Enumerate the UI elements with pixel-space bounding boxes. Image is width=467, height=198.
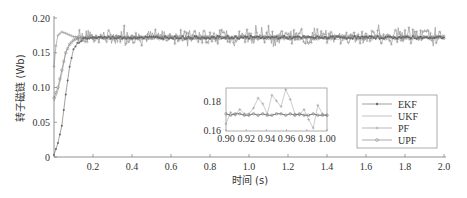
inset-x-tick-label: 0.96	[278, 133, 296, 144]
x-tick-label: 0.4	[126, 161, 139, 172]
y-tick-label: 0.20	[33, 13, 51, 24]
legend: EKFUKFPFUPF	[357, 95, 437, 148]
x-tick-label: 2.0	[438, 161, 451, 172]
x-tick-label: 0.8	[204, 161, 217, 172]
x-tick-label: 0.2	[87, 161, 100, 172]
inset-y-tick-label: 0.18	[204, 96, 222, 107]
inset-plot: 0.900.920.940.960.981.000.160.18	[204, 88, 336, 144]
y-tick-label: 0.05	[33, 117, 51, 128]
legend-item-ukf: UKF	[398, 111, 418, 122]
x-tick-label: 1.2	[282, 161, 295, 172]
inset-x-tick-label: 0.92	[237, 133, 255, 144]
inset-x-tick-label: 0.98	[298, 133, 316, 144]
inset-y-tick-label: 0.16	[204, 125, 222, 136]
x-tick-label: 0.6	[165, 161, 178, 172]
legend-item-pf: PF	[398, 123, 410, 134]
x-tick-label: 1.6	[360, 161, 373, 172]
y-tick-label: 0.15	[33, 47, 51, 58]
y-ticks: 00.050.100.150.20	[33, 13, 58, 163]
x-tick-label: 1.8	[399, 161, 412, 172]
x-axis-label: 时间 (s)	[232, 174, 268, 186]
inset-x-tick-label: 0.94	[258, 133, 276, 144]
legend-item-upf: UPF	[398, 135, 417, 146]
y-axis-label: 转子磁链 (Wb)	[14, 54, 26, 121]
x-tick-label: 1.0	[243, 161, 256, 172]
legend-item-ekf: EKF	[398, 99, 417, 110]
inset-x-tick-label: 1.00	[318, 133, 336, 144]
y-tick-label: 0	[45, 152, 50, 163]
rotor-flux-chart: 0.20.40.60.81.01.21.41.61.82.0 00.050.10…	[0, 0, 467, 198]
x-tick-label: 1.4	[321, 161, 334, 172]
series-pf	[54, 25, 444, 67]
y-tick-label: 0.10	[33, 82, 51, 93]
